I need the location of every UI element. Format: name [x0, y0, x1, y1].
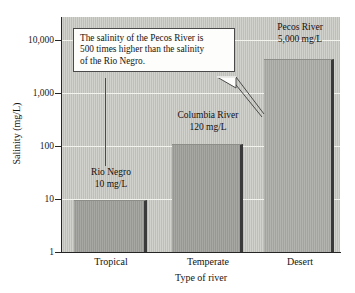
- x-tick-label-desert: Desert: [252, 256, 348, 268]
- bar-label-pecos-river: Pecos River 5,000 mg/L: [252, 22, 348, 45]
- annotation-callout: The salinity of the Pecos River is 500 t…: [73, 28, 235, 72]
- y-axis-title: Salinity (mg/L): [11, 74, 22, 194]
- bar-label-columbia-river-name: Columbia River: [152, 110, 264, 122]
- annotation-callout-tail: [217, 76, 237, 89]
- salinity-bar-chart: 10,000 1,000 100 10 1 Rio Negro 10 mg/L …: [0, 0, 355, 293]
- bar-label-pecos-river-value: 5,000 mg/L: [252, 34, 348, 46]
- bar-label-pecos-river-name: Pecos River: [252, 22, 348, 34]
- x-tick-label-tropical: Tropical: [60, 256, 162, 268]
- bar-label-columbia-river: Columbia River 120 mg/L: [152, 110, 264, 133]
- bar-label-rio-negro-name: Rio Negro: [60, 167, 162, 179]
- bar-label-columbia-river-value: 120 mg/L: [152, 122, 264, 134]
- annotation-callout-line-3: of the Rio Negro.: [80, 56, 229, 67]
- bar-label-rio-negro: Rio Negro 10 mg/L: [60, 167, 162, 190]
- x-axis-title: Type of river: [62, 272, 340, 283]
- bar-label-rio-negro-value: 10 mg/L: [60, 179, 162, 191]
- annotation-callout-line-2: 500 times higher than the salinity: [80, 44, 229, 55]
- annotation-callout-line-1: The salinity of the Pecos River is: [80, 33, 229, 44]
- x-tick-label-temperate: Temperate: [156, 256, 260, 268]
